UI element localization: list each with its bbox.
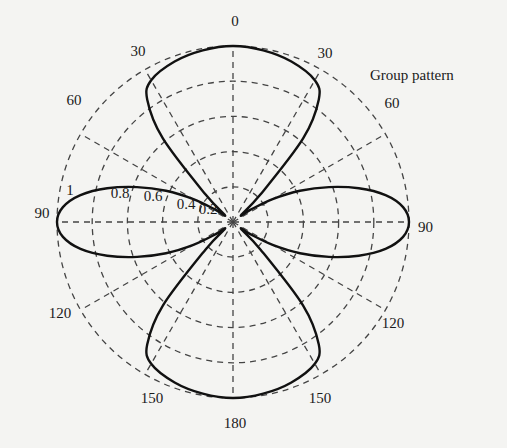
angle-tick-label: 60 xyxy=(385,95,400,111)
angle-tick-label: 150 xyxy=(309,390,332,406)
radial-tick-label: 1 xyxy=(66,182,74,198)
angle-spoke xyxy=(233,222,321,374)
angle-tick-label: 120 xyxy=(49,305,72,321)
angle-spoke xyxy=(81,222,233,310)
angle-tick-label: 120 xyxy=(382,315,405,331)
angle-spoke xyxy=(145,222,233,374)
angle-spoke xyxy=(233,134,385,222)
polar-chart: 03060901201501803060901201500.20.40.60.8… xyxy=(0,0,507,448)
angle-spoke xyxy=(233,70,321,222)
radial-tick-label: 0.8 xyxy=(111,185,130,201)
angle-tick-label: 0 xyxy=(231,13,239,29)
angle-tick-label: 150 xyxy=(141,390,164,406)
radial-tick-label: 0.6 xyxy=(144,188,163,204)
angle-tick-label: 30 xyxy=(131,43,146,59)
angle-tick-label: 60 xyxy=(67,92,82,108)
radial-tick-label: 0.2 xyxy=(199,201,218,217)
polar-grid xyxy=(57,46,409,398)
angle-tick-label: 30 xyxy=(318,45,333,61)
legend-label: Group pattern xyxy=(370,67,454,83)
angle-tick-label: 90 xyxy=(35,205,50,221)
radial-tick-label: 0.4 xyxy=(177,196,196,212)
angle-tick-label: 90 xyxy=(418,219,433,235)
angle-spoke xyxy=(233,222,385,310)
angle-tick-label: 180 xyxy=(224,415,247,431)
